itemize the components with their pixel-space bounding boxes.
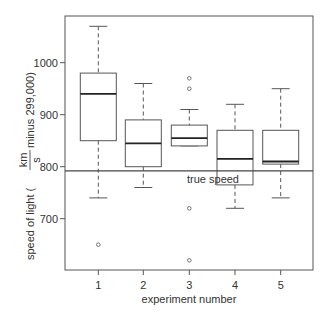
box-1 (80, 73, 116, 141)
y-tick-label: 1000 (34, 57, 58, 69)
box-plot: 700800900100012345experiment numberspeed… (0, 0, 330, 317)
outlier-point (188, 207, 192, 211)
svg-text:speed of light (: speed of light ( (24, 188, 36, 260)
outlier-point (188, 77, 192, 81)
y-tick-label: 900 (40, 109, 58, 121)
x-tick-label: 4 (232, 279, 238, 291)
svg-text:s: s (30, 157, 42, 163)
svg-text:km: km (17, 153, 29, 168)
x-tick-label: 1 (95, 279, 101, 291)
x-tick-label: 5 (278, 279, 284, 291)
y-tick-label: 700 (40, 213, 58, 225)
outlier-point (97, 243, 101, 247)
box-5 (263, 130, 299, 164)
x-tick-label: 2 (140, 279, 146, 291)
outlier-point (188, 87, 192, 91)
y-tick-label: 800 (40, 161, 58, 173)
y-axis-label: speed of light (kms minus 299,000) (17, 72, 42, 260)
x-axis-label: experiment number (142, 293, 237, 305)
svg-text:minus 299,000): minus 299,000) (24, 72, 36, 148)
x-tick-label: 3 (186, 279, 192, 291)
true-speed-label: true speed (187, 173, 239, 185)
box-3 (171, 125, 207, 146)
outlier-point (188, 259, 192, 263)
